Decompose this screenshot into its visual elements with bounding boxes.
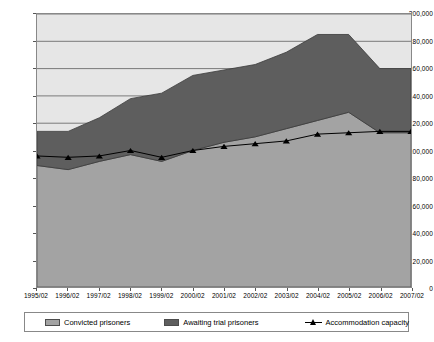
- x-axis-tick-mark: [193, 288, 194, 291]
- x-axis-tick-mark: [161, 288, 162, 291]
- x-axis-tick-mark: [36, 288, 37, 291]
- x-axis-tick-mark: [99, 288, 100, 291]
- x-axis-tick-mark: [224, 288, 225, 291]
- x-axis-tick-mark: [255, 288, 256, 291]
- x-axis-tick-mark: [381, 288, 382, 291]
- x-axis-tick-label: 2007/02: [390, 292, 434, 300]
- chart-legend: Convicted prisonersAwaiting trial prison…: [24, 312, 409, 332]
- legend-item-label: Awaiting trial prisoners: [183, 318, 258, 327]
- legend-item[interactable]: Accommodation capacity: [305, 318, 409, 327]
- legend-item[interactable]: Convicted prisoners: [45, 318, 130, 327]
- x-axis-tick-mark: [130, 288, 131, 291]
- x-axis-tick-mark: [318, 288, 319, 291]
- legend-item-label: Accommodation capacity: [326, 318, 409, 327]
- x-axis-tick-mark: [412, 288, 413, 291]
- legend-item-label: Convicted prisoners: [64, 318, 130, 327]
- triangle-marker-icon: [305, 318, 322, 327]
- legend-item[interactable]: Awaiting trial prisoners: [164, 318, 258, 327]
- legend-color-swatch: [164, 319, 179, 326]
- x-axis-tick-mark: [67, 288, 68, 291]
- x-axis-tick-mark: [287, 288, 288, 291]
- legend-color-swatch: [45, 319, 60, 326]
- plot-area: [36, 13, 412, 288]
- x-axis-tick-mark: [349, 288, 350, 291]
- gridlines: [37, 14, 411, 287]
